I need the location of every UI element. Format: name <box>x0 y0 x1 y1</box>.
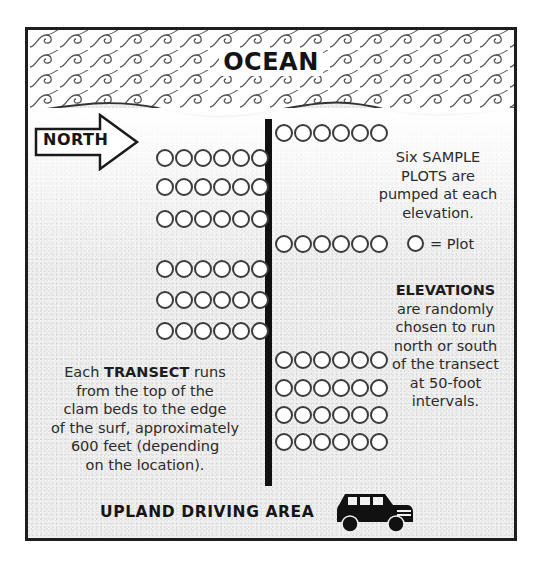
plot-row-left-5 <box>156 291 270 309</box>
plot-circle-icon <box>194 178 212 196</box>
plot-circle-icon <box>313 406 331 424</box>
plot-circle-icon <box>275 433 293 451</box>
plot-circle-icon <box>194 210 212 228</box>
plot-circle-icon <box>251 178 269 196</box>
plot-circle-icon <box>351 124 369 142</box>
note-line: are randomly <box>383 300 508 319</box>
north-label: NORTH <box>43 130 108 149</box>
ocean-label: OCEAN <box>28 48 514 76</box>
plot-circle-icon <box>275 351 293 369</box>
ocean-title-text: OCEAN <box>219 48 323 76</box>
plot-circle-icon <box>313 124 331 142</box>
plot-circle-icon <box>232 291 250 309</box>
plot-circle-icon <box>351 379 369 397</box>
plot-circle-icon <box>332 351 350 369</box>
plot-circle-icon <box>156 291 174 309</box>
plot-circle-icon <box>213 260 231 278</box>
plot-circle-icon <box>251 210 269 228</box>
plot-row-right-5 <box>275 406 389 424</box>
plot-circle-icon <box>351 406 369 424</box>
plot-circle-icon <box>251 260 269 278</box>
plot-circle-icon <box>156 322 174 340</box>
plot-circle-icon <box>294 433 312 451</box>
plot-circle-icon <box>294 379 312 397</box>
plot-circle-icon <box>251 322 269 340</box>
plot-circle-icon <box>313 235 331 253</box>
plot-circle-icon <box>156 260 174 278</box>
plot-circle-icon <box>156 178 174 196</box>
plot-row-left-4 <box>156 260 270 278</box>
plot-circle-icon <box>294 406 312 424</box>
plot-circle-icon <box>213 291 231 309</box>
sample-plots-note: Six SAMPLE PLOTS are pumped at each elev… <box>373 148 503 222</box>
plot-row-right-3 <box>275 351 389 369</box>
plot-circle-icon <box>275 379 293 397</box>
elevations-heading: ELEVATIONS <box>383 281 508 300</box>
plot-circle-icon <box>351 433 369 451</box>
plot-circle-icon <box>156 149 174 167</box>
plot-circle-icon <box>175 322 193 340</box>
plot-circle-icon <box>294 351 312 369</box>
plot-circle-icon <box>194 260 212 278</box>
plot-circle-icon <box>232 260 250 278</box>
plot-circle-icon <box>232 149 250 167</box>
plot-circle-icon <box>294 124 312 142</box>
plot-row-right-2 <box>275 235 389 253</box>
plot-circle-icon <box>332 235 350 253</box>
plot-circle-icon <box>275 235 293 253</box>
plot-circle-icon <box>194 149 212 167</box>
plot-circle-icon <box>275 406 293 424</box>
plot-circle-icon <box>232 210 250 228</box>
note-text: runs <box>189 364 226 380</box>
plot-circle-icon <box>175 149 193 167</box>
plot-circle-icon <box>351 235 369 253</box>
note-line: of the surf, approximately <box>36 419 254 438</box>
plot-circle-icon <box>251 149 269 167</box>
note-text: Each <box>64 364 104 380</box>
note-line: elevation. <box>373 204 503 223</box>
plot-circle-icon <box>175 260 193 278</box>
plot-row-right-1 <box>275 124 389 142</box>
plot-legend: = Plot <box>407 235 474 252</box>
elevations-heading-text: ELEVATIONS <box>396 282 496 298</box>
plot-circle-icon <box>370 124 388 142</box>
note-line: on the location). <box>36 456 254 475</box>
transect-note: Each TRANSECT runs from the top of the c… <box>36 363 254 474</box>
plot-circle-icon <box>313 351 331 369</box>
upland-driving-area-label: UPLAND DRIVING AREA <box>100 503 314 521</box>
plot-circle-icon <box>213 149 231 167</box>
plot-circle-icon <box>194 322 212 340</box>
note-line: intervals. <box>383 392 508 411</box>
note-line: PLOTS are <box>373 167 503 186</box>
note-line: north or south <box>383 337 508 356</box>
plot-row-right-6 <box>275 433 389 451</box>
plot-circle-icon <box>294 235 312 253</box>
plot-row-left-3 <box>156 210 270 228</box>
plot-circle-icon <box>313 433 331 451</box>
plot-circle-icon <box>213 210 231 228</box>
plot-circle-icon <box>332 406 350 424</box>
plot-circle-icon <box>332 124 350 142</box>
note-line: at 50-foot <box>383 374 508 393</box>
plot-circle-icon <box>213 178 231 196</box>
suv-icon <box>333 491 415 535</box>
plot-row-right-4 <box>275 379 389 397</box>
plot-circle-icon <box>332 433 350 451</box>
plot-circle-icon <box>213 322 231 340</box>
plot-circle-icon <box>370 235 388 253</box>
plot-circle-icon <box>194 291 212 309</box>
note-line: pumped at each <box>373 185 503 204</box>
plot-circle-icon <box>175 291 193 309</box>
note-line: from the top of the <box>36 382 254 401</box>
note-line: of the transect <box>383 355 508 374</box>
plot-row-left-2 <box>156 178 270 196</box>
plot-circle-icon <box>275 124 293 142</box>
plot-circle-icon <box>232 178 250 196</box>
note-line: chosen to run <box>383 318 508 337</box>
plot-circle-icon <box>370 433 388 451</box>
plot-circle-icon <box>156 210 174 228</box>
transect-keyword: TRANSECT <box>104 364 189 380</box>
note-line: clam beds to the edge <box>36 400 254 419</box>
plot-row-left-6 <box>156 322 270 340</box>
elevations-note: ELEVATIONS are randomly chosen to run no… <box>383 281 508 411</box>
